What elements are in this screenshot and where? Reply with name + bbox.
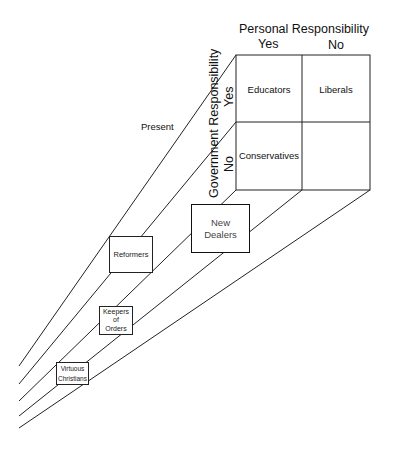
era-label: Christians <box>58 375 87 382</box>
cell-liberals: Liberals <box>302 84 370 95</box>
present-label: Present <box>141 121 174 132</box>
era-label: New <box>211 217 230 228</box>
era-label: of <box>113 316 119 323</box>
row-header-yes: Yes <box>222 87 236 107</box>
era-label: Keepers <box>103 308 129 315</box>
era-label: Virtuous <box>61 365 85 372</box>
cell-conservatives: Conservatives <box>236 150 302 161</box>
era-label: Reformers <box>113 250 148 259</box>
era-label: Orders <box>105 325 126 332</box>
cell-educators: Educators <box>236 84 302 95</box>
era-box-keepers-of-orders: KeepersofOrders <box>99 306 133 335</box>
era-box-virtuous-christians: VirtuousChristians <box>56 362 89 385</box>
column-header-yes: Yes <box>258 37 278 51</box>
era-label: Dealers <box>204 229 237 240</box>
era-box-reformers: Reformers <box>109 236 153 273</box>
row-axis-title: Government Responsibility <box>207 49 221 198</box>
row-header-no: No <box>222 156 236 172</box>
era-box-new-dealers: NewDealers <box>191 204 250 253</box>
column-axis-title: Personal Responsibility <box>239 22 369 36</box>
column-header-no: No <box>328 38 344 52</box>
